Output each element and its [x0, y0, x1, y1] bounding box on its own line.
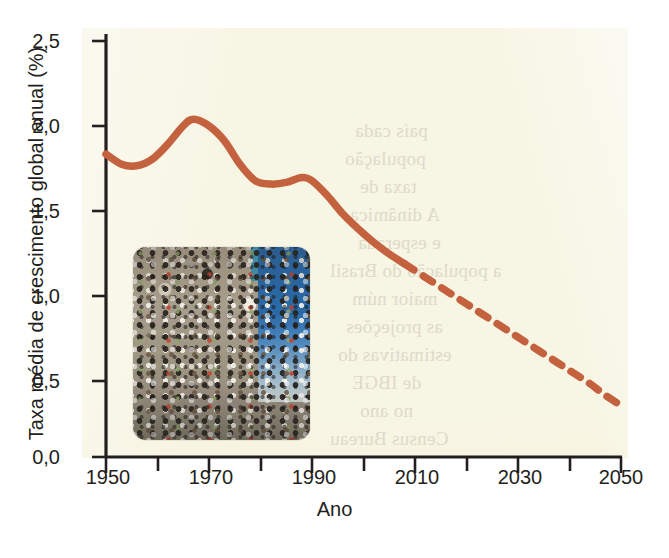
x-tick-label: 2010 — [377, 466, 457, 488]
x-tick-label: 1970 — [171, 466, 251, 488]
data-series-group — [106, 119, 621, 405]
population-growth-rate-chart: país cada população taxa de A dinâmica e… — [0, 0, 669, 558]
series-line-observado — [106, 119, 405, 264]
x-axis-title: Ano — [0, 498, 669, 521]
x-tick-label: 2030 — [480, 466, 560, 488]
x-tick-label: 2050 — [581, 466, 661, 488]
x-axis-tick-labels: 1950 1970 1990 2010 2030 2050 — [0, 466, 669, 496]
y-axis-ticks — [92, 41, 106, 457]
x-tick-label: 1950 — [68, 466, 148, 488]
series-line-projetado — [405, 264, 621, 405]
x-tick-label: 1990 — [274, 466, 354, 488]
y-axis-title: Taxa média de crescimento global anual (… — [25, 34, 48, 454]
